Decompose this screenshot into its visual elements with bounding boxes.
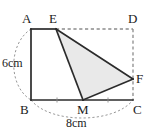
vertex-label-m: M (77, 103, 89, 116)
measure-label-height: 6cm (2, 57, 23, 69)
geometry-figure: AEDFCMB 6cm8cm (0, 0, 148, 133)
shaded-triangle-emf (56, 29, 133, 100)
measure-label-width: 8cm (66, 117, 87, 129)
vertex-label-c: C (133, 103, 142, 116)
vertex-label-f: F (136, 72, 143, 85)
vertex-label-d: D (128, 12, 137, 25)
vertex-label-b: B (20, 103, 29, 116)
vertex-label-e: E (49, 12, 57, 25)
vertex-label-a: A (22, 12, 31, 25)
